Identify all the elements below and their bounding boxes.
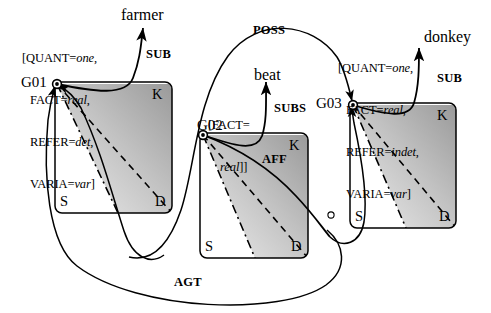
attr-line-real-g02: real]] <box>208 160 250 174</box>
relation-label-sub-donkey: SUB <box>437 71 462 85</box>
attribute-block-g03: [QUANT=one, FACT=real, REFER=indet, VARI… <box>338 33 419 229</box>
word-donkey: donkey <box>424 28 471 46</box>
diagram-canvas: [QUANT=one, FACT=real, REFER=det, VARIA=… <box>0 0 491 313</box>
attr-line-varia-g03: VARIA=var] <box>338 187 419 201</box>
relation-label-aff: AFF <box>262 152 287 166</box>
relation-label-poss: POSS <box>253 23 285 37</box>
corner-label-g03-k: K <box>437 107 447 123</box>
attr-line-quant-g03: [QUANT=one, <box>338 61 419 75</box>
relation-label-sub-farmer: SUB <box>146 47 171 61</box>
node-label-g03: G03 <box>316 95 342 112</box>
corner-label-g03-d: D <box>439 208 449 224</box>
attr-line-quant: [QUANT=one, <box>22 51 97 65</box>
relation-label-agt: AGT <box>174 275 202 289</box>
attr-line-fact: FACT=real, <box>22 93 97 107</box>
attribute-block-g02: [FACT= real]] <box>208 90 250 202</box>
node-label-g01: G01 <box>21 74 47 91</box>
attr-line-refer-g03: REFER=indet, <box>338 145 419 159</box>
small-circle-marker <box>328 212 334 218</box>
corner-label-g01-s: S <box>60 193 68 209</box>
corner-label-g01-d: D <box>155 193 165 209</box>
node-label-g02: G02 <box>197 117 223 134</box>
attribute-block-g01: [QUANT=one, FACT=real, REFER=det, VARIA=… <box>22 23 97 219</box>
relation-label-subs-beat: SUBS <box>274 101 306 115</box>
corner-label-g02-d: D <box>291 238 301 254</box>
attr-line-varia: VARIA=var] <box>22 177 97 191</box>
corner-label-g02-k: K <box>289 137 299 153</box>
attr-line-fact-g03: FACT=real, <box>338 103 419 117</box>
attr-line-refer: REFER=det, <box>22 135 97 149</box>
corner-label-g01-k: K <box>152 86 162 102</box>
corner-label-g02-s: S <box>205 238 213 254</box>
word-farmer: farmer <box>121 6 164 24</box>
corner-label-g03-s: S <box>355 208 363 224</box>
word-beat: beat <box>254 66 281 84</box>
